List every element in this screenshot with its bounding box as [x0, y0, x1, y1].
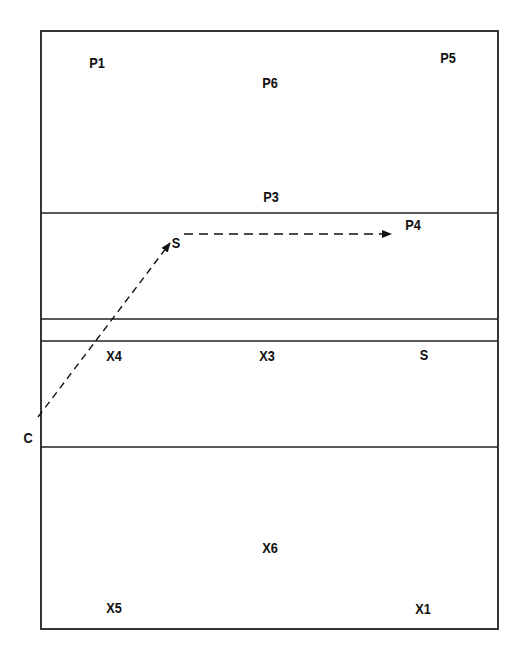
label-x6: X6 — [262, 540, 278, 555]
label-x3: X3 — [259, 348, 275, 363]
label-s-setter-front: S — [172, 235, 181, 250]
label-p1: P1 — [89, 55, 105, 70]
label-p3: P3 — [263, 189, 279, 204]
label-x4: X4 — [106, 348, 122, 363]
label-x1: X1 — [415, 601, 431, 616]
label-x5: X5 — [106, 600, 122, 615]
label-c: C — [23, 430, 32, 445]
arrow-c-to-s — [38, 243, 170, 417]
label-p5: P5 — [440, 50, 456, 65]
label-s-setter-back: S — [420, 347, 429, 362]
label-p4: P4 — [405, 217, 421, 232]
court-diagram — [0, 0, 522, 662]
label-p6: P6 — [262, 75, 278, 90]
